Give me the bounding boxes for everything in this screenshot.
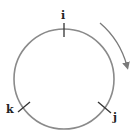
label-k: k [6,103,14,116]
tick-j [98,102,111,113]
circle [14,29,114,129]
clockwise-arrow-icon [100,23,127,66]
circle-diagram: i j k [0,0,137,135]
label-j: j [112,111,117,124]
label-i: i [61,9,65,22]
